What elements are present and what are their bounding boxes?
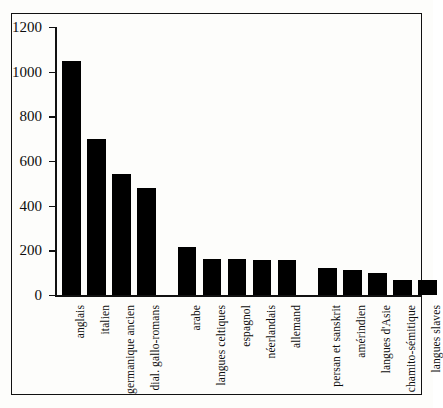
x-axis-tick-label: germanique ancien (125, 305, 137, 394)
bar (178, 247, 197, 295)
y-axis-tick: 400 (49, 206, 55, 207)
bar (137, 188, 156, 295)
x-axis-tick-label: néerlandais (266, 305, 278, 358)
x-axis-tick-label: allemand (291, 305, 303, 348)
bar (318, 268, 337, 295)
y-axis-tick-label: 0 (35, 288, 43, 303)
y-axis-tick-label: 1200 (12, 20, 42, 35)
y-axis-tick-label: 800 (20, 109, 43, 124)
bar (87, 139, 106, 295)
x-axis-tick-label: langues slaves (431, 305, 443, 373)
y-axis-tick: 1000 (49, 72, 55, 73)
bar (368, 273, 387, 295)
y-axis-line (55, 27, 57, 295)
x-axis-tick-label: chamito-sémitique (406, 305, 418, 392)
y-axis-tick: 200 (49, 250, 55, 251)
bar (228, 259, 247, 295)
x-axis-tick-label: espagnol (241, 305, 253, 347)
x-axis-tick-label: italien (100, 305, 112, 334)
y-axis-tick: 0 (49, 295, 55, 296)
plot-area: 020040060080010001200 anglaisitaliengerm… (55, 27, 421, 295)
y-axis-tick-label: 1000 (12, 64, 42, 79)
x-axis-tick-label: dial. gallo-romans (150, 305, 162, 390)
x-axis-tick-label: amérindien (356, 305, 368, 358)
y-axis-tick-label: 200 (20, 243, 43, 258)
bar (393, 280, 412, 295)
y-axis-tick: 800 (49, 116, 55, 117)
bar (253, 260, 272, 295)
x-axis-tick-label: persan et sanskrit (331, 305, 343, 387)
x-axis-tick-label: langues d'Asie (381, 305, 393, 373)
y-axis-tick: 600 (49, 161, 55, 162)
y-axis-tick-label: 600 (20, 154, 43, 169)
bar (343, 270, 362, 295)
bar (278, 260, 297, 295)
x-axis-tick-label: arabe (191, 305, 203, 330)
bar (203, 259, 222, 295)
x-axis-tick-label: anglais (75, 305, 87, 338)
y-axis-tick-label: 400 (20, 198, 43, 213)
bar (112, 174, 131, 295)
bar (62, 61, 81, 296)
x-axis-tick-label: langues celtiques (216, 305, 228, 386)
y-axis-tick: 1200 (49, 27, 55, 28)
x-axis-line (55, 295, 421, 297)
bar (418, 280, 437, 295)
